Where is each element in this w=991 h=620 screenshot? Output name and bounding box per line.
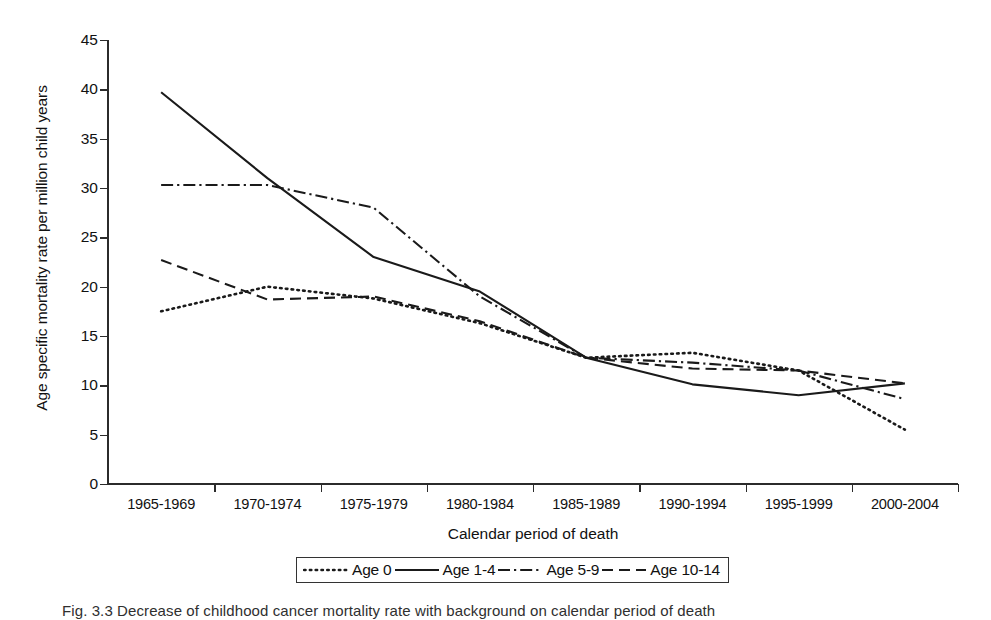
y-tick-10 (100, 385, 107, 386)
x-tick-5 (639, 484, 640, 492)
y-tick-label-20: 20 (28, 279, 98, 295)
y-tick-label-0: 0 (28, 476, 98, 492)
y-tick-label-30: 30 (28, 180, 98, 196)
y-tick-label-15: 15 (28, 328, 98, 344)
y-tick-label-40: 40 (28, 81, 98, 97)
x-tick-label-1975-1979: 1975-1979 (314, 496, 434, 512)
x-tick-label-1985-1989: 1985-1989 (526, 496, 646, 512)
legend-label-age-0: Age 0 (352, 561, 394, 579)
x-tick-4 (533, 484, 534, 492)
x-tick-3 (427, 484, 428, 492)
x-tick-label-1990-1994: 1990-1994 (632, 496, 752, 512)
y-tick-40 (100, 89, 107, 90)
series-line-age-5-9 (161, 185, 905, 399)
legend-entry-age-5-9[interactable]: Age 5-9 (497, 558, 601, 582)
x-tick-8 (958, 484, 959, 492)
series-line-age-0 (161, 287, 905, 430)
y-tick-label-25: 25 (28, 229, 98, 245)
figure-container: Age specific mortality rate per million … (0, 0, 991, 620)
legend-label-age-1-4: Age 1-4 (443, 561, 498, 579)
x-tick-7 (852, 484, 853, 492)
legend-entry-age-1-4[interactable]: Age 1-4 (394, 558, 498, 582)
y-tick-label-45: 45 (28, 32, 98, 48)
x-tick-6 (746, 484, 747, 492)
x-tick-label-2000-2004: 2000-2004 (845, 496, 965, 512)
legend-label-age-5-9: Age 5-9 (546, 561, 601, 579)
series-canvas (108, 40, 958, 484)
y-tick-25 (100, 237, 107, 238)
legend-swatch-dashed-icon (601, 563, 647, 577)
series-line-age-10-14 (161, 260, 905, 383)
y-tick-0 (100, 484, 107, 485)
figure-caption: Fig. 3.3 Decrease of childhood cancer mo… (62, 601, 962, 620)
y-tick-15 (100, 336, 107, 337)
x-tick-label-1965-1969: 1965-1969 (101, 496, 221, 512)
series-line-age-1-4 (161, 92, 905, 395)
y-tick-5 (100, 435, 107, 436)
y-tick-label-35: 35 (28, 131, 98, 147)
plot-area (108, 40, 958, 484)
x-axis-title: Calendar period of death (108, 525, 958, 543)
y-tick-35 (100, 139, 107, 140)
chart-legend: Age 0Age 1-4Age 5-9Age 10-14 (296, 557, 729, 583)
x-tick-label-1995-1999: 1995-1999 (739, 496, 859, 512)
legend-label-age-10-14: Age 10-14 (650, 561, 722, 579)
legend-entry-age-10-14[interactable]: Age 10-14 (601, 558, 722, 582)
y-tick-20 (100, 287, 107, 288)
x-tick-label-1980-1984: 1980-1984 (420, 496, 540, 512)
y-tick-label-10: 10 (28, 377, 98, 393)
legend-swatch-dash-dot-icon (497, 563, 543, 577)
x-tick-1 (214, 484, 215, 492)
y-tick-label-5: 5 (28, 427, 98, 443)
legend-swatch-solid-icon (394, 563, 440, 577)
x-tick-label-1970-1974: 1970-1974 (207, 496, 327, 512)
legend-swatch-dotted-icon (303, 563, 349, 577)
y-tick-30 (100, 188, 107, 189)
x-tick-2 (321, 484, 322, 492)
legend-entry-age-0[interactable]: Age 0 (303, 558, 394, 582)
y-axis-tick-labels: 051015202530354045 (22, 0, 98, 620)
y-tick-45 (100, 40, 107, 41)
